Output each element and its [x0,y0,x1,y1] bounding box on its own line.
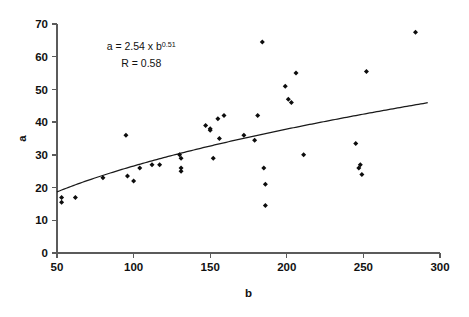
data-point [359,172,364,177]
data-point [255,113,260,118]
fit-equation-base: a = 2.54 x b [107,40,162,52]
data-point [215,116,220,121]
correlation-text: R = 0.58 [121,57,161,69]
y-tick-label-30: 30 [35,149,48,161]
data-point [157,162,162,167]
axis-tick-labels: 01020304050607050100150200250300 [35,18,449,273]
regression-curve [57,103,428,192]
data-point [289,100,294,105]
data-point [73,195,78,200]
y-tick-label-70: 70 [35,18,48,30]
data-point [137,165,142,170]
y-tick-label-10: 10 [35,214,48,226]
data-point [353,141,358,146]
data-point [261,165,266,170]
y-tick-label-40: 40 [35,116,48,128]
data-point [179,169,184,174]
data-point [286,97,291,102]
axis-ticks [52,24,440,258]
plot-canvas: 01020304050607050100150200250300 a = 2.5… [0,0,469,317]
data-point [59,195,64,200]
scatter-plot-figure: 01020304050607050100150200250300 a = 2.5… [0,0,469,317]
data-point [263,203,268,208]
data-points [59,30,418,208]
y-axis-title: a [16,135,28,142]
x-tick-label-200: 200 [277,261,296,273]
y-tick-label-0: 0 [42,247,48,259]
data-point [252,138,257,143]
y-tick-label-50: 50 [35,84,48,96]
data-point [221,113,226,118]
data-point [125,174,130,179]
x-tick-label-150: 150 [201,261,220,273]
axis-titles: ba [16,135,252,299]
data-point [203,123,208,128]
fit-equation-exponent: 0.51 [162,40,176,49]
data-point [293,71,298,76]
data-point [149,162,154,167]
x-tick-label-250: 250 [354,261,373,273]
data-point [364,69,369,74]
data-point [211,156,216,161]
x-tick-label-300: 300 [430,261,449,273]
data-point [413,30,418,35]
data-point [283,84,288,89]
data-point [263,182,268,187]
power-fit-curve [57,103,428,192]
data-point [131,179,136,184]
x-tick-label-50: 50 [51,261,64,273]
x-tick-label-100: 100 [124,261,143,273]
data-point [217,136,222,141]
data-point [301,152,306,157]
fit-equation-text: a = 2.54 x b0.51 [107,40,176,53]
y-tick-label-60: 60 [35,51,48,63]
y-tick-label-20: 20 [35,182,48,194]
data-point [241,133,246,138]
data-point [123,133,128,138]
data-point [59,200,64,205]
data-point [260,39,265,44]
axes [57,24,440,253]
x-axis-title: b [245,287,252,299]
equation-annotation: a = 2.54 x b0.51R = 0.58 [107,40,176,69]
